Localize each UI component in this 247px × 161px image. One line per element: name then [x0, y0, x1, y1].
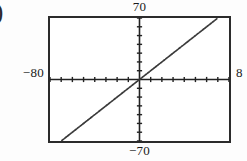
stray-parenthesis-marker: ) [0, 0, 3, 24]
graph-viewport-frame [48, 16, 231, 143]
plot-area [50, 18, 229, 141]
figure-canvas: ) 70 −80 8 −70 [0, 0, 247, 161]
axis-label-top: 70 [48, 0, 231, 14]
axis-label-bottom: −70 [48, 144, 231, 158]
axis-label-left: −80 [8, 66, 44, 80]
axis-label-right: 8 [236, 66, 243, 80]
